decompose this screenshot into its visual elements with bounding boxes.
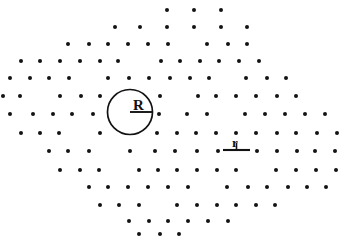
lattice-dot [137,168,141,172]
lattice-dot [219,8,223,12]
lattice-dot [158,94,162,98]
lattice-dot [205,112,209,116]
lattice-dot [166,219,170,223]
lattice-dot [186,219,190,223]
lattice-dot [78,59,82,63]
lattice-dot [153,149,157,153]
lattice-dot [67,76,71,80]
lattice-dot [106,76,110,80]
lattice-dot [185,112,189,116]
lattice-dot [206,219,210,223]
lattice-dot [283,112,287,116]
lattice-dot [257,59,261,63]
lattice-dot [165,8,169,12]
lattice-dot [116,59,120,63]
lattice-dot [192,8,196,12]
lattice-dot [216,149,220,153]
spacing-label-r: r [232,135,238,150]
lattice-dot [87,185,91,189]
lattice-dot [66,42,70,46]
lattice-dot [117,203,121,207]
lattice-dot [294,131,298,135]
lattice-dot [47,76,51,80]
lattice-dot [313,149,317,153]
lattice-dot [225,185,229,189]
lattice-dot [333,149,337,153]
lattice-dot [198,59,202,63]
lattice-dot [147,76,151,80]
lattice-dot [275,131,279,135]
lattice-dot [305,185,309,189]
lattice-dot [159,59,163,63]
lattice-dot [214,94,218,98]
lattice-dot [265,185,269,189]
lattice-dot [195,203,199,207]
lattice-dot [215,203,219,207]
lattice-dot [245,25,249,29]
lattice-dot [175,168,179,172]
lattice-dot [207,76,211,80]
lattice-dot [98,131,102,135]
lattice-dot [98,59,102,63]
lattice-dot [138,25,142,29]
lattice-dot [219,25,223,29]
lattice-dot [175,203,179,207]
lattice-dot [178,59,182,63]
lattice-dot [51,112,55,116]
lattice-dot [98,203,102,207]
lattice-dot [215,168,219,172]
lattice-dot [237,59,241,63]
lattice-dot [214,131,218,135]
lattice-figure: R r [0,0,352,237]
lattice-dot [58,94,62,98]
lattice-dot [265,76,269,80]
lattice-dot [155,131,159,135]
lattice-dot [127,219,131,223]
lattice-dot [188,76,192,80]
lattice-dot [234,203,238,207]
lattice-dot [156,168,160,172]
lattice-dot [226,42,230,46]
lattice-dot [47,149,51,153]
lattice-dot [246,185,250,189]
lattice-dot [196,94,200,98]
lattice-dot [255,149,259,153]
lattice-dot [234,94,238,98]
lattice-dot [173,149,177,153]
lattice-dot [113,25,117,29]
lattice-dot [168,76,172,80]
lattice-dot [127,76,131,80]
lattice-dot [175,131,179,135]
lattice-dot [58,168,62,172]
lattice-dot [194,131,198,135]
lattice-dot [243,112,247,116]
lattice-dot [66,149,70,153]
lattice-dot [295,149,299,153]
lattice-dot [275,94,279,98]
lattice-dot [245,42,249,46]
lattice-dot [19,131,23,135]
lattice-dot [98,94,102,98]
lattice-dot [87,149,91,153]
lattice-dot [18,94,22,98]
lattice-dot [303,112,307,116]
lattice-dot [97,168,101,172]
lattice-dot [274,168,278,172]
lattice-dot [106,42,110,46]
lattice-dot [79,94,83,98]
lattice-dot [38,59,42,63]
lattice-dot [137,203,141,207]
lattice-dot [58,59,62,63]
figure-background [0,0,352,237]
lattice-dot [254,94,258,98]
lattice-dot [323,112,327,116]
lattice-dot [192,25,196,29]
lattice-dot [195,149,199,153]
lattice-dot [157,112,161,116]
lattice-dot [294,168,298,172]
lattice-dot [126,42,130,46]
lattice-dot [205,42,209,46]
lattice-dot [195,168,199,172]
lattice-dot [217,59,221,63]
lattice-dot [147,219,151,223]
